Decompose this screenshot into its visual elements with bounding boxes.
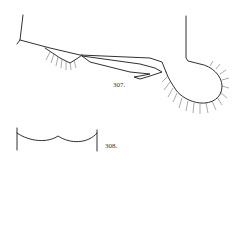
figure-308-drawing bbox=[17, 128, 97, 151]
figure-label-307: 307. bbox=[113, 81, 125, 89]
figure-label-308: 308. bbox=[105, 142, 117, 150]
